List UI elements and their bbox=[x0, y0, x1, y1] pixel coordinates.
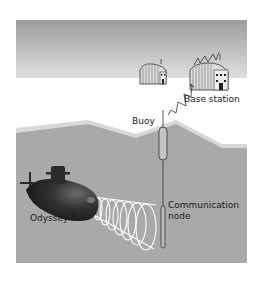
buoy-label: Buoy bbox=[132, 116, 155, 126]
communication-node-icon bbox=[161, 206, 165, 248]
diagram-illustration bbox=[16, 20, 247, 263]
base-station-label: Base station bbox=[184, 94, 240, 104]
communication-node-label-line1: Communication bbox=[168, 200, 239, 210]
diagram-frame: Base station Buoy Odyssey II Communicati… bbox=[16, 20, 247, 263]
submarine-label: Odyssey II bbox=[30, 213, 77, 223]
communication-node-label-line2: node bbox=[168, 211, 190, 221]
